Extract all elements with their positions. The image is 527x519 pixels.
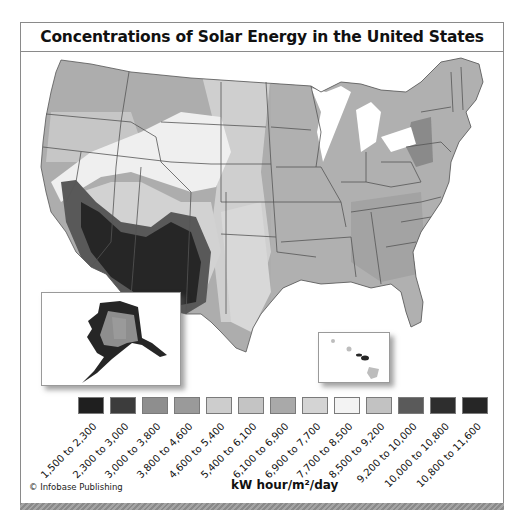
bottom-border-stripe <box>20 503 504 510</box>
legend-swatch <box>110 397 136 414</box>
legend-swatch <box>238 397 264 414</box>
legend-swatch <box>206 397 232 414</box>
title-band: Concentrations of Solar Energy in the Un… <box>21 23 503 52</box>
legend-unit-label: kW hour/m²/day <box>231 478 338 492</box>
legend-label: 9,200 to 10,000 <box>355 421 419 485</box>
legend-label: 1,500 to 2,300 <box>39 421 99 481</box>
legend-swatch <box>174 397 200 414</box>
legend-swatch <box>302 397 328 414</box>
legend-swatch <box>430 397 456 414</box>
hawaii-inset <box>318 332 390 383</box>
alaska-map <box>42 293 180 385</box>
legend-swatch <box>270 397 296 414</box>
map-title: Concentrations of Solar Energy in the Un… <box>40 28 484 46</box>
legend: 1,500 to 2,300 2,300 to 3,000 3,000 to 3… <box>21 397 503 477</box>
hawaii-map <box>319 333 389 382</box>
map-frame: Concentrations of Solar Energy in the Un… <box>20 22 504 506</box>
legend-swatch <box>398 397 424 414</box>
legend-swatch <box>366 397 392 414</box>
alaska-inset <box>41 292 181 386</box>
legend-swatch <box>78 397 104 414</box>
legend-swatch <box>462 397 488 414</box>
publisher-credit: © Infobase Publishing <box>29 482 123 492</box>
legend-swatch <box>142 397 168 414</box>
us-map <box>21 52 503 392</box>
legend-swatch <box>334 397 360 414</box>
